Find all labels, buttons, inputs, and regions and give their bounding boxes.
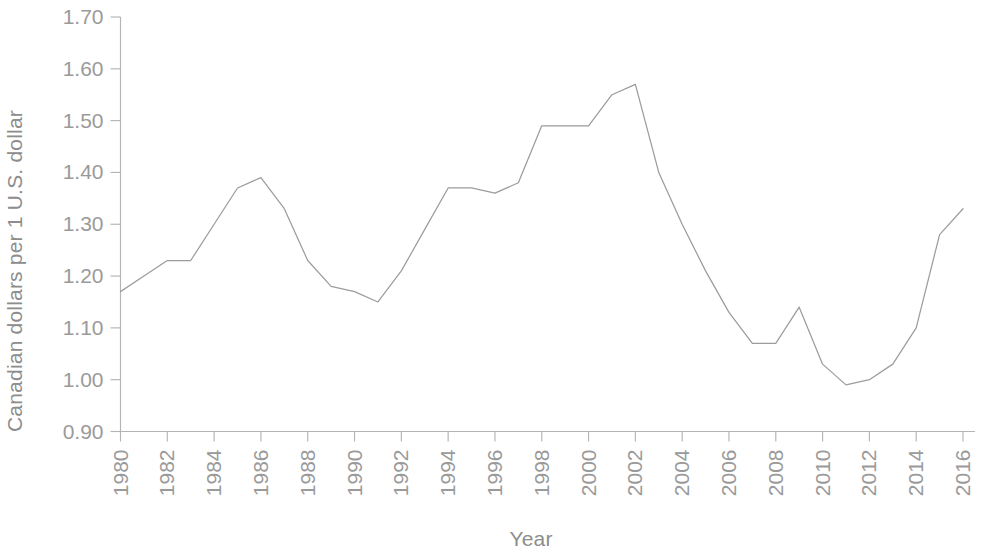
x-tick-label: 2008 <box>764 450 787 497</box>
x-tick-label: 2012 <box>857 450 880 497</box>
y-tick-label: 1.40 <box>63 160 104 183</box>
line-chart: Canadian dollars per 1 U.S. dollar Year … <box>0 0 997 552</box>
x-tick-label: 1992 <box>389 450 412 497</box>
x-axis-ticks: 1980198219841986198819901992199419961998… <box>109 432 975 497</box>
y-tick-label: 1.50 <box>63 109 104 132</box>
x-axis-title-group: Year <box>509 527 552 550</box>
y-tick-label: 0.90 <box>63 420 104 443</box>
y-tick-label: 1.70 <box>63 5 104 28</box>
y-axis-title-group: Canadian dollars per 1 U.S. dollar <box>3 110 26 432</box>
x-tick-label: 1994 <box>436 449 459 496</box>
y-tick-label: 1.30 <box>63 212 104 235</box>
y-tick-label: 1.00 <box>63 368 104 391</box>
x-tick-label: 1988 <box>296 450 319 497</box>
y-axis-ticks: 0.901.001.101.201.301.401.501.601.70 <box>63 5 121 443</box>
x-tick-label: 1982 <box>155 450 178 497</box>
x-tick-label: 2016 <box>951 450 974 497</box>
x-tick-label: 2014 <box>904 449 927 496</box>
x-tick-label: 1996 <box>483 450 506 497</box>
y-axis-title: Canadian dollars per 1 U.S. dollar <box>3 110 26 432</box>
x-tick-label: 1984 <box>202 449 225 496</box>
data-line-series-0 <box>121 84 964 385</box>
y-tick-label: 1.60 <box>63 57 104 80</box>
x-tick-label: 2006 <box>717 450 740 497</box>
x-tick-label: 1998 <box>530 450 553 497</box>
x-tick-label: 1990 <box>343 450 366 497</box>
x-axis-title: Year <box>509 527 552 550</box>
chart-figure: Canadian dollars per 1 U.S. dollar Year … <box>0 0 997 552</box>
x-tick-label: 1986 <box>249 450 272 497</box>
x-tick-label: 2010 <box>811 450 834 497</box>
x-tick-label: 2004 <box>670 449 693 496</box>
y-tick-label: 1.20 <box>63 264 104 287</box>
x-tick-label: 1980 <box>109 450 132 497</box>
x-tick-label: 2000 <box>577 450 600 497</box>
y-tick-label: 1.10 <box>63 316 104 339</box>
x-tick-label: 2002 <box>623 450 646 497</box>
